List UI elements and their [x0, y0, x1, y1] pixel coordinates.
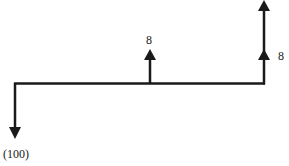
up-arrow-icon: [144, 49, 156, 60]
flow-label-inflow-1: 8: [146, 34, 152, 46]
down-arrow-icon: [9, 127, 21, 139]
up-arrow-icon: [258, 49, 270, 60]
up-arrow-icon: [258, 0, 270, 11]
cash-flow-diagram: [0, 0, 289, 166]
flow-label-inflow-2: 8: [278, 50, 284, 62]
flow-label-outflow: (100): [3, 148, 29, 160]
